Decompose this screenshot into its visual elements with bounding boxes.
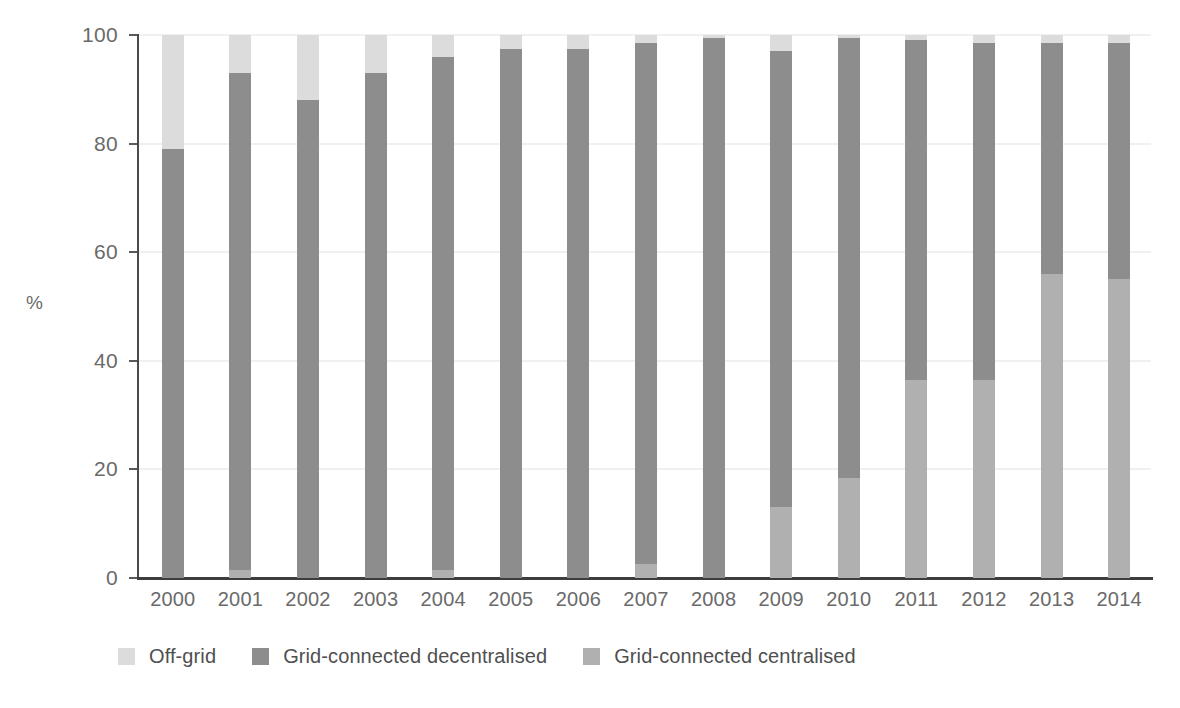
y-axis-tick-label: 80	[44, 132, 118, 156]
bar-segment-grid-connected-decentralised[interactable]	[297, 100, 319, 578]
x-axis-tick-label: 2004	[408, 588, 478, 611]
x-axis-tick-label: 2005	[476, 588, 546, 611]
y-axis-tick-label: 20	[44, 457, 118, 481]
bar-group[interactable]	[973, 35, 995, 578]
bar-segment-grid-connected-centralised[interactable]	[229, 570, 251, 578]
bar-segment-grid-connected-centralised[interactable]	[635, 564, 657, 578]
bar-segment-off-grid[interactable]	[297, 35, 319, 100]
bar-segment-grid-connected-decentralised[interactable]	[162, 149, 184, 578]
bar-segment-grid-connected-decentralised[interactable]	[635, 43, 657, 564]
legend-item[interactable]: Grid-connected centralised	[583, 645, 856, 668]
bar-segment-grid-connected-centralised[interactable]	[973, 380, 995, 578]
bar-segment-off-grid[interactable]	[162, 35, 184, 149]
bar-stack	[567, 35, 589, 578]
bar-segment-off-grid[interactable]	[770, 35, 792, 51]
plot-area	[139, 35, 1153, 578]
y-axis-tick-label: 40	[44, 349, 118, 373]
bar-segment-off-grid[interactable]	[973, 35, 995, 43]
bar-segment-off-grid[interactable]	[1108, 35, 1130, 43]
bar-segment-grid-connected-decentralised[interactable]	[432, 57, 454, 570]
bar-group[interactable]	[500, 35, 522, 578]
x-axis-tick-label: 2012	[949, 588, 1019, 611]
bar-group[interactable]	[703, 35, 725, 578]
bar-segment-off-grid[interactable]	[500, 35, 522, 49]
bar-stack	[905, 35, 927, 578]
bar-group[interactable]	[1041, 35, 1063, 578]
legend-item[interactable]: Off-grid	[118, 645, 216, 668]
bar-stack	[770, 35, 792, 578]
x-axis-tick-label: 2000	[138, 588, 208, 611]
legend-swatch-icon	[583, 648, 600, 665]
x-axis-tick-label: 2007	[611, 588, 681, 611]
bar-group[interactable]	[365, 35, 387, 578]
bar-group[interactable]	[905, 35, 927, 578]
x-axis-tick-label: 2002	[273, 588, 343, 611]
bar-segment-off-grid[interactable]	[365, 35, 387, 73]
bar-segment-off-grid[interactable]	[432, 35, 454, 57]
bar-segment-grid-connected-centralised[interactable]	[770, 507, 792, 578]
bar-stack	[500, 35, 522, 578]
bar-segment-grid-connected-decentralised[interactable]	[770, 51, 792, 507]
bar-stack	[703, 35, 725, 578]
bar-group[interactable]	[838, 35, 860, 578]
x-axis-tick-label: 2001	[205, 588, 275, 611]
stacked-bar-chart: % 020406080100 2000200120022003200420052…	[0, 0, 1180, 708]
bar-stack	[229, 35, 251, 578]
bar-stack	[973, 35, 995, 578]
legend-swatch-icon	[252, 648, 269, 665]
x-axis-tick-label: 2013	[1017, 588, 1087, 611]
bar-segment-grid-connected-decentralised[interactable]	[973, 43, 995, 380]
x-axis-tick-label: 2006	[543, 588, 613, 611]
legend-swatch-icon	[118, 648, 135, 665]
bar-segment-grid-connected-centralised[interactable]	[1108, 279, 1130, 578]
bar-group[interactable]	[297, 35, 319, 578]
bar-segment-grid-connected-centralised[interactable]	[905, 380, 927, 578]
bar-group[interactable]	[770, 35, 792, 578]
x-axis-tick-label: 2009	[746, 588, 816, 611]
y-axis-tick-label: 60	[44, 240, 118, 264]
bar-group[interactable]	[432, 35, 454, 578]
bar-segment-grid-connected-decentralised[interactable]	[838, 38, 860, 478]
bar-segment-grid-connected-decentralised[interactable]	[1108, 43, 1130, 279]
x-axis-tick-label: 2008	[679, 588, 749, 611]
y-axis-tick-label: 0	[44, 566, 118, 590]
x-axis-tick-label: 2014	[1084, 588, 1154, 611]
x-axis-tick-label: 2011	[881, 588, 951, 611]
bar-segment-grid-connected-centralised[interactable]	[838, 478, 860, 578]
bar-segment-off-grid[interactable]	[635, 35, 657, 43]
bar-stack	[297, 35, 319, 578]
bar-segment-off-grid[interactable]	[1041, 35, 1063, 43]
bar-stack	[432, 35, 454, 578]
x-axis-tick-label: 2010	[814, 588, 884, 611]
y-axis-title: %	[26, 292, 43, 314]
x-axis-tick-label: 2003	[341, 588, 411, 611]
bar-group[interactable]	[635, 35, 657, 578]
bar-group[interactable]	[567, 35, 589, 578]
bar-segment-grid-connected-decentralised[interactable]	[905, 40, 927, 379]
bar-segment-grid-connected-decentralised[interactable]	[500, 49, 522, 578]
bar-stack	[1041, 35, 1063, 578]
bar-segment-grid-connected-decentralised[interactable]	[229, 73, 251, 570]
bar-segment-grid-connected-decentralised[interactable]	[1041, 43, 1063, 274]
bar-segment-grid-connected-centralised[interactable]	[432, 570, 454, 578]
y-axis-tick-label: 100	[44, 23, 118, 47]
legend-label: Off-grid	[149, 645, 216, 668]
bar-group[interactable]	[162, 35, 184, 578]
bar-segment-off-grid[interactable]	[229, 35, 251, 73]
chart-legend: Off-gridGrid-connected decentralisedGrid…	[118, 645, 892, 668]
bar-group[interactable]	[1108, 35, 1130, 578]
bar-stack	[365, 35, 387, 578]
bar-segment-grid-connected-decentralised[interactable]	[567, 49, 589, 578]
bar-segment-grid-connected-decentralised[interactable]	[703, 38, 725, 578]
bar-segment-grid-connected-centralised[interactable]	[1041, 274, 1063, 578]
bar-stack	[1108, 35, 1130, 578]
bar-group[interactable]	[229, 35, 251, 578]
legend-label: Grid-connected decentralised	[283, 645, 547, 668]
legend-label: Grid-connected centralised	[614, 645, 856, 668]
legend-item[interactable]: Grid-connected decentralised	[252, 645, 547, 668]
bar-stack	[838, 35, 860, 578]
bar-segment-off-grid[interactable]	[567, 35, 589, 49]
bar-stack	[162, 35, 184, 578]
bar-segment-grid-connected-decentralised[interactable]	[365, 73, 387, 578]
bar-stack	[635, 35, 657, 578]
